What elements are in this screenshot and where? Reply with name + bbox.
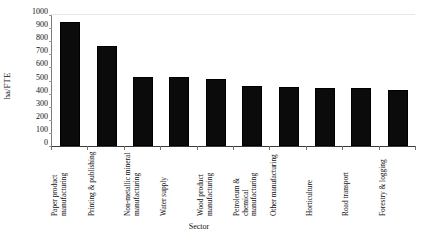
y-axis-title: ha/FTE (2, 56, 12, 116)
y-tick-label: 200 (18, 113, 48, 121)
bar-slot (162, 15, 197, 146)
x-axis-title: Sector (0, 222, 434, 231)
y-tick-label: 300 (18, 100, 48, 108)
x-category-label: Road transport (342, 150, 378, 216)
x-category-label: Petroleum & chemical manufacturing (233, 150, 269, 216)
x-category-label: Horticulture (306, 150, 342, 216)
x-category-label-text: Horticulture (306, 150, 315, 216)
bar (315, 88, 335, 146)
y-tick-label: 800 (18, 34, 48, 42)
bar (388, 90, 408, 146)
y-tick-mark (49, 107, 52, 108)
x-category-label-text: Other manufacturing (270, 150, 279, 216)
bar-chart: ha/FTE 10009008007006005004003002001000 … (0, 0, 434, 244)
bar-series (52, 15, 416, 146)
plot-area (51, 15, 416, 147)
x-category-label-text: Printing & publishing (88, 150, 97, 216)
bar (133, 77, 153, 146)
y-tick-label: 100 (18, 126, 48, 134)
bar-slot (89, 15, 124, 146)
bar-slot (198, 15, 233, 146)
y-tick-mark (49, 54, 52, 55)
x-category-label: Water supply (160, 150, 196, 216)
x-axis-category-labels: Paper product manufacturingPrinting & pu… (51, 150, 416, 216)
x-category-label: Non-metallic mineral manufacturing (124, 150, 160, 216)
y-tick-label: 400 (18, 87, 48, 95)
y-tick-label: 1000 (18, 8, 48, 16)
bar-slot (380, 15, 415, 146)
bar-slot (344, 15, 379, 146)
x-category-label: Wood product manufacturing (197, 150, 233, 216)
y-tick-mark (49, 15, 52, 16)
y-tick-label: 500 (18, 74, 48, 82)
bar-slot (53, 15, 88, 146)
x-category-label-text: Non-metallic mineral manufacturing (124, 150, 141, 216)
y-tick-mark (49, 120, 52, 121)
x-category-label-text: Forestry & logging (379, 150, 388, 216)
bar (169, 77, 189, 146)
bar (206, 79, 226, 146)
y-tick-label: 700 (18, 47, 48, 55)
x-category-label: Paper product manufacturing (51, 150, 87, 216)
bar-slot (307, 15, 342, 146)
y-tick-mark (49, 81, 52, 82)
x-axis-title-text: Sector (189, 222, 209, 231)
y-tick-mark (49, 94, 52, 95)
x-category-label: Forestry & logging (379, 150, 415, 216)
x-category-label-text: Paper product manufacturing (51, 150, 68, 216)
y-tick-mark (49, 67, 52, 68)
bar (242, 86, 262, 146)
y-tick-label: 0 (18, 139, 48, 147)
x-category-label-text: Road transport (342, 150, 351, 216)
y-tick-label: 900 (18, 21, 48, 29)
y-tick-label: 600 (18, 60, 48, 68)
x-category-label: Other manufacturing (270, 150, 306, 216)
x-category-label-text: Petroleum & chemical manufacturing (233, 150, 259, 216)
y-axis-tick-labels: 10009008007006005004003002001000 (18, 12, 48, 146)
x-category-label-text: Water supply (160, 150, 169, 216)
x-category-label: Printing & publishing (88, 150, 124, 216)
y-tick-mark (49, 133, 52, 134)
bar-slot (126, 15, 161, 146)
bar (97, 46, 117, 146)
y-tick-mark (49, 28, 52, 29)
bar-slot (271, 15, 306, 146)
bar-slot (235, 15, 270, 146)
bar (279, 87, 299, 146)
bar (60, 22, 80, 146)
x-category-label-text: Wood product manufacturing (197, 150, 214, 216)
bar (351, 88, 371, 146)
y-tick-mark (49, 41, 52, 42)
